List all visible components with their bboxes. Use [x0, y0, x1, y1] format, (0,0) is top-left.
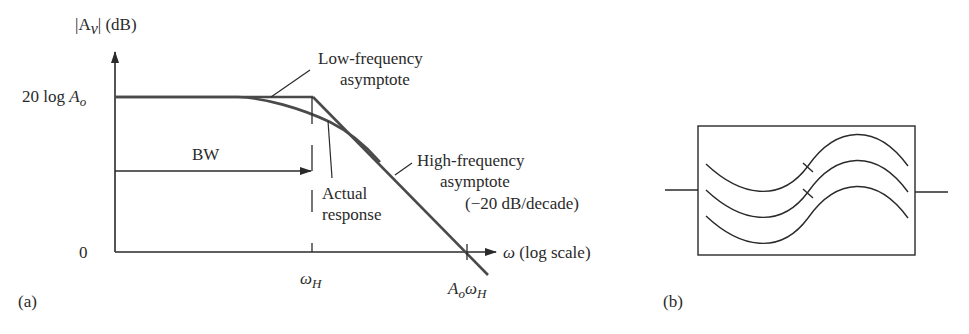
low-frequency-label-2: asymptote — [340, 70, 410, 89]
wave-bottom — [706, 186, 908, 243]
figure-canvas: |Av| (dB) 20 log Ao 0 BW Low-frequency a… — [0, 0, 969, 334]
wave-middle — [706, 160, 908, 217]
panel-label-b: (b) — [663, 292, 683, 311]
high-freq-leader — [395, 163, 412, 175]
bandwidth-label: BW — [192, 145, 220, 164]
x-tick-wh: ωH — [300, 269, 322, 291]
bode-plot: |Av| (dB) 20 log Ao 0 BW Low-frequency a… — [18, 15, 591, 311]
lowpass-filter-symbol: (b) — [663, 126, 948, 311]
high-frequency-label-2: asymptote — [440, 172, 510, 191]
x-axis-label: ω (log scale) — [503, 243, 591, 262]
y-axis-label: |Av| (dB) — [75, 15, 137, 37]
wave-top — [706, 134, 908, 191]
filter-box — [698, 126, 915, 255]
actual-response-label-1: Actual — [322, 184, 368, 203]
low-freq-leader — [271, 70, 310, 97]
actual-response-curve — [115, 97, 380, 162]
actual-response-label-2: response — [322, 205, 381, 224]
high-frequency-label-3: (−20 dB/decade) — [465, 194, 579, 213]
high-frequency-label-1: High-frequency — [417, 151, 525, 170]
y-tick-zero: 0 — [79, 243, 88, 262]
actual-response-leader — [328, 121, 332, 178]
x-tick-aowh: AoωH — [447, 279, 487, 301]
low-frequency-label-1: Low-frequency — [318, 49, 423, 68]
panel-label-a: (a) — [18, 292, 37, 311]
y-tick-20logao: 20 log Ao — [22, 87, 87, 109]
